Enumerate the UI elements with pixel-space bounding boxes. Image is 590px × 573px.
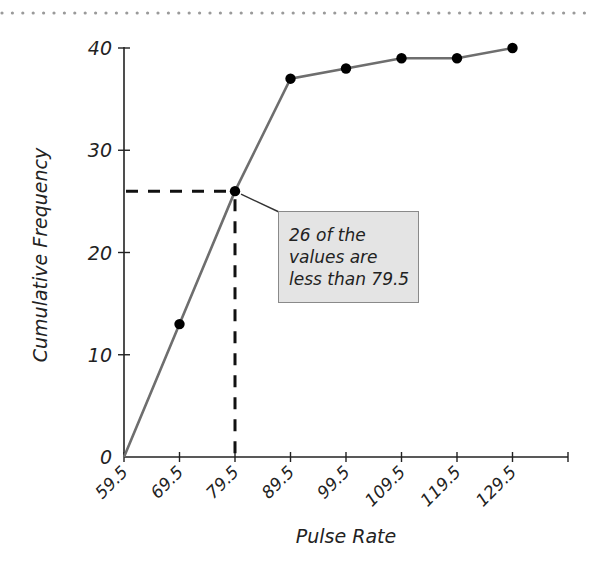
y-tick-label: 20 — [88, 242, 112, 264]
data-point-marker — [174, 319, 184, 329]
y-axis-title: Cumulative Frequency — [29, 147, 51, 362]
y-tick-label: 0 — [100, 446, 112, 468]
x-tick-label: 89.5 — [257, 462, 298, 503]
annotation-callout: 26 of the values are less than 79.5 — [278, 211, 419, 303]
data-point-marker — [507, 43, 517, 53]
x-tick-label: 109.5 — [361, 462, 410, 511]
callout-line-3: less than 79.5 — [289, 268, 418, 290]
callout-line-2: values are — [289, 246, 418, 268]
data-point-marker — [396, 53, 406, 63]
callout-leader — [241, 194, 279, 212]
callout-line-1: 26 of the — [289, 224, 418, 246]
y-tick-label: 40 — [88, 37, 112, 59]
x-axis: 59.569.579.589.599.5109.5119.5129.5 — [91, 452, 568, 510]
x-tick-label: 129.5 — [472, 462, 521, 511]
data-point-marker — [452, 53, 462, 63]
x-tick-label: 99.5 — [313, 462, 354, 503]
data-point-marker — [285, 73, 295, 83]
x-tick-label: 119.5 — [416, 462, 465, 511]
y-tick-label: 10 — [88, 344, 112, 366]
x-tick-label: 59.5 — [91, 462, 132, 503]
y-axis: 010203040 — [88, 37, 130, 468]
x-axis-title: Pulse Rate — [296, 525, 396, 547]
x-tick-label: 79.5 — [202, 462, 243, 503]
data-point-marker — [341, 63, 351, 73]
data-point-marker — [230, 186, 240, 196]
x-tick-label: 69.5 — [146, 462, 187, 503]
y-tick-label: 30 — [88, 139, 112, 161]
